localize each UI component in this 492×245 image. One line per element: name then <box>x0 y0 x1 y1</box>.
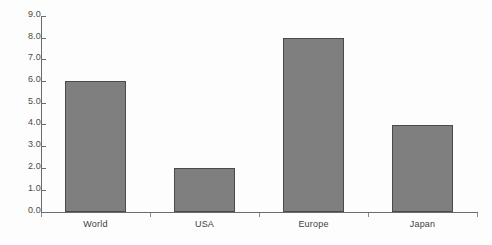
y-axis-tick-mark <box>42 81 46 82</box>
y-axis-tick-mark <box>42 103 46 104</box>
y-axis-tick-label: 5.0 <box>28 96 41 106</box>
y-axis-tick-label: 2.0 <box>28 161 41 171</box>
y-axis-tick-label: 6.0 <box>28 74 41 84</box>
x-axis-label-japan: Japan <box>392 219 453 229</box>
x-axis-label-usa: USA <box>174 219 235 229</box>
bar-japan <box>392 125 453 212</box>
x-axis-tick-mark <box>477 213 478 217</box>
y-axis-tick-label: 0.0 <box>28 205 41 215</box>
y-axis-tick-label: 7.0 <box>28 52 41 62</box>
x-axis-label-europe: Europe <box>283 219 344 229</box>
x-axis-label-world: World <box>65 219 126 229</box>
x-axis-tick-mark <box>368 213 369 217</box>
bar-chart: 0.0 1.0 2.0 3.0 4.0 5.0 6.0 7.0 8.0 9.0 <box>0 0 492 245</box>
y-axis-tick-mark <box>42 59 46 60</box>
y-axis-tick-mark <box>42 146 46 147</box>
bar-europe <box>283 38 344 212</box>
y-axis-tick-label: 9.0 <box>28 9 41 19</box>
y-axis-tick-mark <box>42 38 46 39</box>
y-axis-tick-mark <box>42 124 46 125</box>
x-axis-tick-mark <box>150 213 151 217</box>
x-axis-tick-mark <box>41 213 42 217</box>
y-axis-tick-label: 1.0 <box>28 183 41 193</box>
bar-world <box>65 81 126 212</box>
y-axis-line <box>41 16 42 213</box>
bar-usa <box>174 168 235 212</box>
y-axis-tick-label: 3.0 <box>28 139 41 149</box>
y-axis-tick-mark <box>42 16 46 17</box>
y-axis-tick-label: 8.0 <box>28 31 41 41</box>
y-axis-tick-label: 4.0 <box>28 117 41 127</box>
x-axis-tick-mark <box>259 213 260 217</box>
y-axis-tick-mark <box>42 168 46 169</box>
y-axis-tick-mark <box>42 190 46 191</box>
